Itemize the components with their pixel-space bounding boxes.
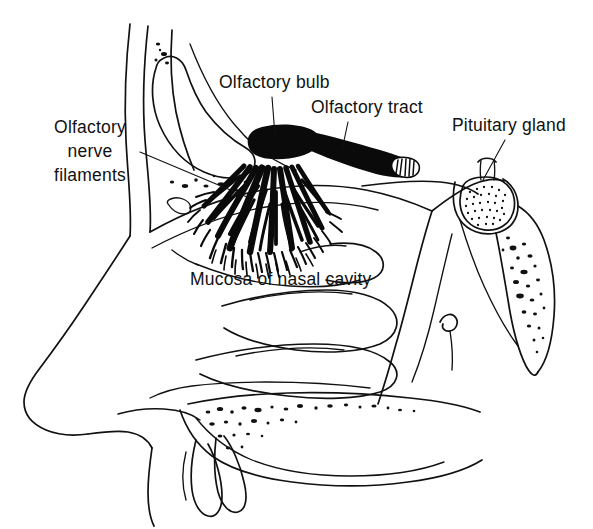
olfactory-apparatus-diagram: Olfactory nerve filaments Olfactory bulb… <box>0 0 593 529</box>
label-olfactory-tract: Olfactory tract <box>311 97 423 117</box>
olfactory-tract-cut-end <box>392 157 420 177</box>
label-mucosa-of-nasal-cavity: Mucosa of nasal cavity <box>190 269 371 289</box>
label-olfactory-nerve-filaments-line-1: Olfactory <box>54 117 126 137</box>
label-olfactory-nerve-filaments-line-2: nerve <box>68 141 113 161</box>
infundibulum-right <box>494 160 495 180</box>
label-pituitary-gland: Pituitary gland <box>452 115 566 135</box>
label-olfactory-nerve-filaments-line-3: filaments <box>54 165 126 185</box>
label-olfactory-bulb: Olfactory bulb <box>219 72 330 92</box>
